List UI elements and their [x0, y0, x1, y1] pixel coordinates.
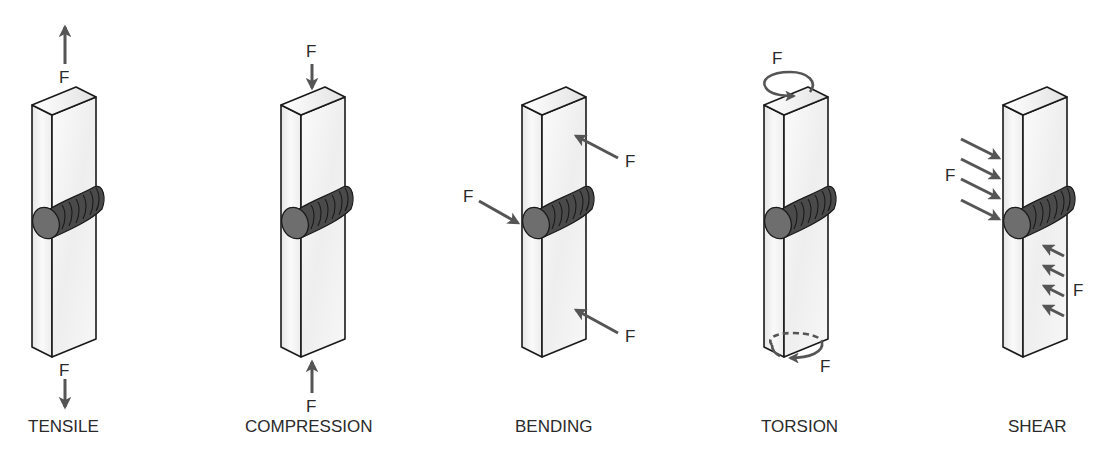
arrow-icon: [479, 201, 518, 223]
panel-label: BENDING: [515, 417, 592, 436]
force-label: F: [59, 68, 69, 87]
panel-label: TENSILE: [28, 417, 99, 436]
arrow-icon: [961, 200, 999, 219]
welded-bar: [277, 87, 353, 357]
arrow-icon: [961, 139, 999, 158]
force-label: F: [625, 327, 635, 346]
force-label: F: [306, 42, 316, 61]
arrow-icon: [961, 159, 999, 178]
force-label: F: [1073, 281, 1083, 300]
welded-bar: [518, 87, 594, 357]
panel-label: TORSION: [761, 417, 838, 436]
arrow-icon: [961, 179, 999, 198]
force-label: F: [59, 361, 69, 380]
force-label: F: [945, 166, 955, 185]
force-label: F: [306, 397, 316, 416]
force-label: F: [772, 49, 782, 68]
force-label: F: [820, 357, 830, 376]
panel-torsion: F F TORSION: [760, 49, 838, 436]
panel-shear: F F SHEAR: [945, 87, 1083, 436]
welded-bar: [760, 87, 836, 357]
stress-types-diagram: F F TENSILE F F COMPRESSION F F F BENDIN…: [0, 0, 1109, 458]
panel-bending: F F F BENDING: [463, 87, 635, 436]
welded-bar: [28, 87, 104, 357]
force-label: F: [625, 152, 635, 171]
force-label: F: [463, 187, 473, 206]
panel-compression: F F COMPRESSION: [245, 42, 373, 436]
panel-tensile: F F TENSILE: [28, 27, 104, 436]
panel-label: SHEAR: [1008, 417, 1067, 436]
panel-label: COMPRESSION: [245, 417, 373, 436]
